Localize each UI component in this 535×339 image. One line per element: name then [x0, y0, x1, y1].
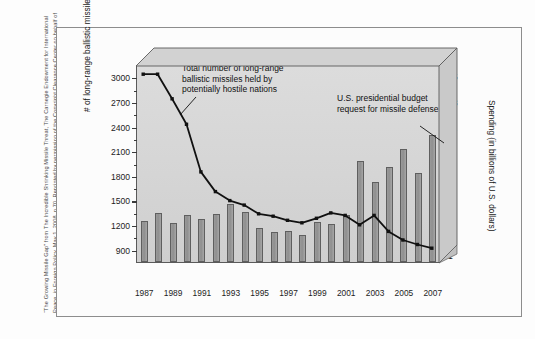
x-tick-label-1993: 1993 [221, 288, 240, 298]
right-minor-tick [439, 192, 443, 193]
x-tick-label-1987: 1987 [135, 288, 154, 298]
bar-1987 [141, 221, 148, 262]
bar-1991 [198, 219, 205, 262]
left-tick-label-2100: 2100 [111, 147, 130, 157]
right-tick-label-1: 1 [448, 251, 453, 261]
bar-1995 [256, 228, 263, 262]
bar-2002 [357, 161, 364, 262]
right-tick-label-5: 5 [448, 200, 453, 210]
left-minor-tick [134, 214, 137, 215]
x-tick-label-1997: 1997 [279, 288, 298, 298]
right-tick-7 [439, 179, 445, 180]
bar-2003 [372, 182, 379, 262]
bar-2000 [328, 224, 335, 262]
right-tick-13 [439, 103, 445, 104]
left-tick-label-2400: 2400 [111, 123, 130, 133]
bar-2007 [429, 135, 436, 262]
bar-1993 [227, 204, 234, 262]
x-tick-label-1999: 1999 [308, 288, 327, 298]
left-tick-label-1200: 1200 [111, 221, 130, 231]
annotation-line-series: Total number of long-range ballistic mis… [182, 63, 284, 95]
left-minor-tick [134, 140, 137, 141]
right-tick-label-11: 11 [448, 123, 457, 133]
right-tick-15 [439, 77, 445, 78]
left-tick-label-2700: 2700 [111, 98, 130, 108]
right-minor-tick [439, 116, 443, 117]
right-minor-tick [439, 243, 443, 244]
x-tick-label-1995: 1995 [250, 288, 269, 298]
left-tick-3000 [132, 78, 137, 79]
x-tick-label-2007: 2007 [423, 288, 442, 298]
left-tick-label-1800: 1800 [111, 172, 130, 182]
right-tick-label-9: 9 [448, 149, 453, 159]
left-tick-1800 [132, 177, 137, 178]
right-minor-tick [439, 141, 443, 142]
bar-1989 [170, 223, 177, 262]
right-tick-3 [439, 230, 445, 231]
bar-2006 [415, 173, 422, 262]
bar-1997 [285, 231, 292, 262]
x-tick-label-1991: 1991 [193, 288, 212, 298]
bar-2001 [343, 215, 350, 262]
bar-1990 [184, 215, 191, 262]
annotation-bar-series: U.S. presidential budget request for mis… [337, 93, 439, 114]
left-tick-label-3000: 3000 [111, 73, 130, 83]
right-tick-5 [439, 205, 445, 206]
bar-1992 [213, 214, 220, 262]
right-tick-11 [439, 128, 445, 129]
right-minor-tick [439, 90, 443, 91]
figure-page: “The Growing Missile Gap” from The Incre… [0, 0, 535, 339]
right-axis-title: Spending (in billions of U.S. dollars) [487, 100, 497, 270]
right-tick-label-15: 15 [448, 72, 458, 82]
left-tick-1200 [132, 226, 137, 227]
right-tick-label-3: 3 [448, 225, 453, 235]
right-tick-9 [439, 154, 445, 155]
left-tick-label-1500: 1500 [111, 196, 130, 206]
left-minor-tick [134, 238, 137, 239]
left-tick-1500 [132, 201, 137, 202]
right-tick-label-13: 13 [448, 98, 458, 108]
chart-3d-box: 9001200150018002100240027003000 13579111… [118, 48, 463, 280]
x-tick-label-2001: 2001 [337, 288, 356, 298]
bar-1996 [271, 232, 278, 262]
bar-2005 [400, 149, 407, 262]
left-tick-2400 [132, 128, 137, 129]
right-tick-label-7: 7 [448, 174, 453, 184]
right-tick-1 [439, 256, 445, 257]
left-axis-title: # of long-range ballistic missiles [82, 0, 92, 112]
left-minor-tick [134, 91, 137, 92]
x-tick-label-2005: 2005 [395, 288, 414, 298]
right-minor-tick [439, 218, 443, 219]
right-minor-tick [439, 167, 443, 168]
x-tick-label-2003: 2003 [366, 288, 385, 298]
bar-2004 [386, 167, 393, 262]
left-tick-900 [132, 251, 137, 252]
left-minor-tick [134, 165, 137, 166]
x-tick-label-1989: 1989 [164, 288, 183, 298]
left-tick-label-900: 900 [116, 246, 130, 256]
left-minor-tick [134, 189, 137, 190]
left-minor-tick [134, 115, 137, 116]
bar-1988 [155, 213, 162, 262]
left-tick-2100 [132, 152, 137, 153]
left-tick-2700 [132, 103, 137, 104]
bar-1994 [242, 212, 249, 262]
bar-1999 [314, 222, 321, 262]
bar-1998 [299, 235, 306, 262]
